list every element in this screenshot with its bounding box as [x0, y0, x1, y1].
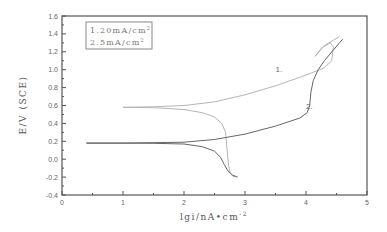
x-tick-label: 2	[182, 199, 186, 206]
y-tick-label: -0.4	[46, 192, 58, 199]
curve-label-2: 2.	[306, 102, 313, 111]
curve-label-1: 1.	[276, 65, 283, 74]
legend: 1.20mA/cm2 2.5mA/cm2	[86, 22, 152, 49]
y-tick-label: 0.4	[48, 120, 58, 127]
x-tick-label: 4	[304, 199, 308, 206]
x-tick-label: 1	[121, 199, 125, 206]
x-axis-title: lgi/nA•cm-2	[180, 210, 248, 222]
y-tick-label: 0.0	[48, 156, 58, 163]
y-tick-label: -0.2	[46, 174, 58, 181]
y-tick-label: 0.6	[48, 102, 58, 109]
legend-entry-1: 1.20mA/cm2	[90, 25, 151, 35]
curve-2-cathodic	[86, 143, 237, 177]
x-axis-ticks: 012345	[60, 191, 369, 206]
legend-entry-2: 2.5mA/cm2	[90, 37, 145, 47]
x-tick-label: 5	[365, 199, 369, 206]
y-tick-label: 0.2	[48, 138, 58, 145]
y-tick-label: 1.2	[48, 48, 58, 55]
y-axis-title: E/V (SCE)	[18, 75, 28, 134]
y-axis-ticks: -0.4-0.20.00.20.40.60.81.01.21.41.6	[46, 13, 66, 199]
y-tick-label: 0.8	[48, 84, 58, 91]
y-tick-label: 1.0	[48, 66, 58, 73]
curve-1-anodic	[123, 37, 340, 108]
curve-labels: 1.2.	[276, 65, 313, 111]
x-tick-label: 0	[60, 199, 64, 206]
curves	[86, 37, 342, 178]
y-tick-label: 1.6	[48, 13, 58, 20]
y-tick-label: 1.4	[48, 30, 58, 37]
polarization-chart: -0.4-0.20.00.20.40.60.81.01.21.41.6 0123…	[0, 0, 387, 232]
curve-2-anodic	[86, 39, 342, 143]
x-tick-label: 3	[243, 199, 247, 206]
